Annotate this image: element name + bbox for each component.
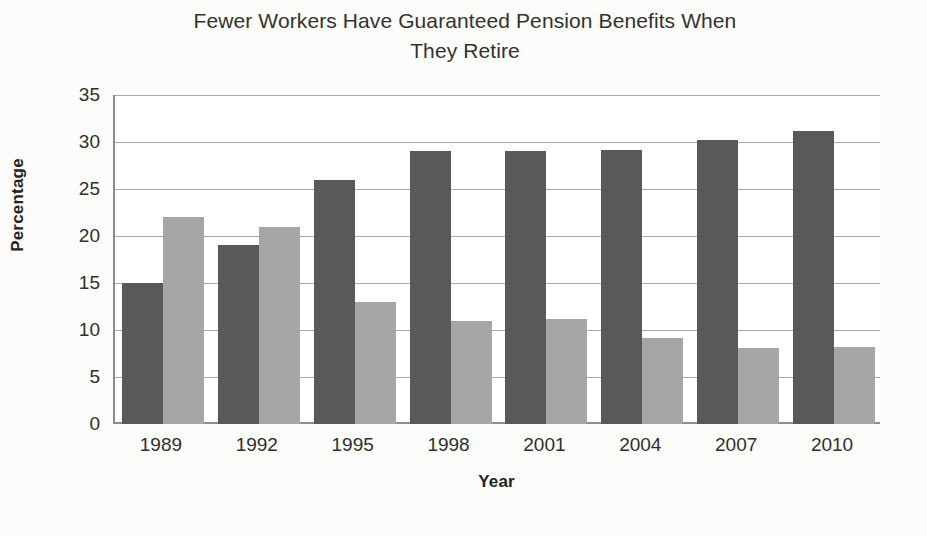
bar-series-2-2007[interactable] [738,348,779,424]
bar-series-2-1989[interactable] [163,217,204,424]
x-axis-title: Year [113,472,880,492]
bar-group-2001 [505,95,587,424]
x-axis-tick-label-1995: 1995 [298,434,408,456]
chart-title: Fewer Workers Have Guaranteed Pension Be… [120,6,810,66]
y-axis-tick-label: 20 [44,226,100,245]
bar-series-1-1995[interactable] [314,180,355,424]
bar-group-1989 [122,95,204,424]
x-axis-tick-label-1992: 1992 [202,434,312,456]
bar-series-1-2001[interactable] [505,151,546,424]
bar-series-1-2010[interactable] [793,131,834,424]
y-axis-title: Percentage [8,125,28,285]
x-axis-tick-label-2004: 2004 [585,434,695,456]
x-axis-tick-labels: 19891992199519982001200420072010 [113,434,880,464]
bar-group-2007 [697,95,779,424]
y-axis-tick-label: 35 [44,85,100,104]
y-axis-tick-labels: 35302520151050 [40,95,100,424]
bar-series-2-2010[interactable] [834,347,875,424]
bar-series-2-1995[interactable] [355,302,396,424]
bar-series-layer [113,95,880,424]
bar-group-2004 [601,95,683,424]
y-axis-tick-label: 5 [44,367,100,386]
bar-group-1992 [218,95,300,424]
bar-series-1-1992[interactable] [218,245,259,424]
bar-series-1-2007[interactable] [697,140,738,424]
y-axis-tick-label: 15 [44,273,100,292]
y-axis-tick-label: 25 [44,179,100,198]
x-axis-tick-label-1989: 1989 [106,434,216,456]
bar-series-2-2004[interactable] [642,338,683,424]
gridline [115,424,880,425]
bar-series-2-1992[interactable] [259,227,300,424]
bar-series-1-1998[interactable] [410,151,451,424]
bar-series-1-2004[interactable] [601,150,642,424]
y-axis-tick-label: 10 [44,320,100,339]
x-axis-tick-label-2007: 2007 [681,434,791,456]
bar-group-1998 [410,95,492,424]
y-axis-tick-label: 0 [44,414,100,433]
x-axis-tick-label-2010: 2010 [777,434,887,456]
bar-series-2-2001[interactable] [546,319,587,424]
chart-container: Fewer Workers Have Guaranteed Pension Be… [0,0,927,536]
bar-series-1-1989[interactable] [122,283,163,424]
x-axis-tick-label-2001: 2001 [489,434,599,456]
bar-group-1995 [314,95,396,424]
bar-group-2010 [793,95,875,424]
bar-series-2-1998[interactable] [451,321,492,424]
x-axis-tick-label-1998: 1998 [394,434,504,456]
y-axis-tick-label: 30 [44,132,100,151]
